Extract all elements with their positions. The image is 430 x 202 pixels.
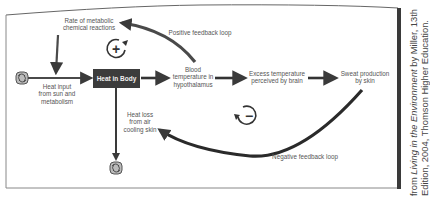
node-heat-loss: Heat loss from air cooling skin — [120, 111, 160, 133]
node-sweat-production: Sweat production by skin — [337, 70, 393, 85]
sweat-line1: Sweat production — [337, 70, 393, 77]
node-excess-temperature: Excess temperature perceived by brain — [245, 70, 309, 85]
arrow-metabolic-to-input — [56, 35, 58, 72]
heat-loss-line3: cooling skin — [120, 126, 160, 133]
svg-text:−: − — [245, 108, 253, 124]
metabolic-rate-line2: chemical reactions — [54, 24, 124, 31]
sink-icon — [110, 162, 122, 174]
node-blood-temperature: Blood temperature in hypothalamus — [168, 66, 218, 88]
svg-text:+: + — [112, 41, 120, 57]
credit-title: Living in the Environment — [408, 69, 419, 174]
blood-temp-line3: hypothalamus — [168, 81, 218, 88]
metabolic-rate-line1: Rate of metabolic — [54, 17, 124, 24]
node-heat-input: Heat input from sun and metabolism — [32, 83, 82, 105]
heat-input-line3: metabolism — [32, 98, 82, 105]
blood-temp-line1: Blood — [168, 66, 218, 73]
excess-temp-line2: perceived by brain — [245, 77, 309, 84]
negative-feedback-label: Negative feedback loop — [265, 153, 345, 160]
credit-line2: Edition, 2004, Thomson Higher Education. — [419, 9, 430, 196]
heat-input-line2: from sun and — [32, 90, 82, 97]
positive-feedback-label: Positive feedback loop — [160, 29, 240, 36]
credit-prefix: from — [408, 175, 419, 196]
source-credit: from Living in the Environment by Miller… — [408, 9, 430, 196]
blood-temp-line2: temperature in — [168, 73, 218, 80]
heat-input-line1: Heat input — [32, 83, 82, 90]
heat-loss-line2: from air — [120, 118, 160, 125]
node-heat-in-body: Heat in Body — [93, 69, 140, 88]
credit-line1: from Living in the Environment by Miller… — [408, 9, 419, 196]
node-metabolic-rate: Rate of metabolic chemical reactions — [54, 17, 124, 32]
heat-loss-line1: Heat loss — [120, 111, 160, 118]
excess-temp-line1: Excess temperature — [245, 70, 309, 77]
sweat-line2: by skin — [337, 77, 393, 84]
positive-loop-icon: + — [107, 40, 128, 58]
credit-suffix: by Miller, 13th — [408, 9, 419, 69]
negative-feedback-arrow — [160, 90, 362, 156]
negative-loop-icon: − — [234, 106, 256, 124]
source-icon — [16, 72, 28, 84]
